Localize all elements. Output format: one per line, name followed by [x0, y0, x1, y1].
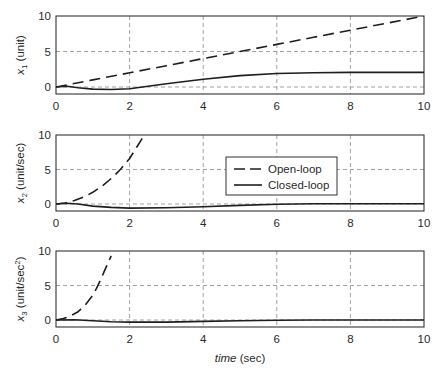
grid: [56, 16, 424, 94]
x-tick-label: 0: [53, 217, 59, 229]
y-axis-label: x2 (unit/sec): [14, 142, 29, 204]
y-tick-label: 5: [45, 280, 51, 292]
x-tick-label: 0: [53, 100, 59, 112]
y-tick-label: 0: [45, 198, 51, 210]
y-tick-label: 0: [45, 81, 51, 93]
y-tick-label: 5: [45, 164, 51, 176]
x-tick-label: 6: [274, 217, 280, 229]
y-tick-label: 10: [38, 10, 51, 22]
x-tick-label: 2: [126, 333, 132, 345]
open-loop-line: [56, 256, 111, 320]
figure: 02468100510x1 (unit)02468100510x2 (unit/…: [0, 0, 443, 372]
y-axis-label: x3 (unit/sec2): [13, 256, 29, 322]
legend-open-loop-label: Open-loop: [268, 163, 322, 175]
axes-box: [56, 251, 424, 327]
x-tick-label: 2: [126, 217, 132, 229]
x-tick-label: 8: [347, 217, 353, 229]
x-tick-label: 10: [418, 217, 431, 229]
x-axis-label: time (sec): [215, 352, 266, 364]
closed-loop-line: [56, 320, 424, 322]
y-tick-label: 10: [38, 129, 51, 141]
x-tick-label: 4: [200, 333, 207, 345]
x-tick-label: 2: [126, 100, 132, 112]
panel-1: 02468100510x1 (unit): [14, 10, 430, 112]
panel-2: 02468100510x2 (unit/sec)Open-loopClosed-…: [14, 129, 430, 229]
x-tick-label: 10: [418, 100, 431, 112]
legend-closed-loop-label: Closed-loop: [268, 179, 329, 191]
y-tick-label: 0: [45, 314, 51, 326]
x-tick-label: 4: [200, 217, 207, 229]
x-tick-label: 6: [274, 333, 280, 345]
y-tick-label: 10: [38, 245, 51, 257]
y-tick-label: 5: [45, 46, 51, 58]
grid: [56, 251, 424, 327]
x-tick-label: 8: [347, 100, 353, 112]
series-group: [56, 256, 424, 322]
axes-box: [56, 16, 424, 94]
x-tick-label: 8: [347, 333, 353, 345]
y-axis-label: x1 (unit): [14, 35, 29, 76]
legend: Open-loopClosed-loop: [226, 157, 337, 195]
x-tick-label: 4: [200, 100, 207, 112]
panel-3: 02468100510x3 (unit/sec2): [13, 245, 430, 345]
series-group: [56, 16, 424, 90]
x-tick-label: 0: [53, 333, 59, 345]
x-tick-label: 10: [418, 333, 431, 345]
x-tick-label: 6: [274, 100, 280, 112]
